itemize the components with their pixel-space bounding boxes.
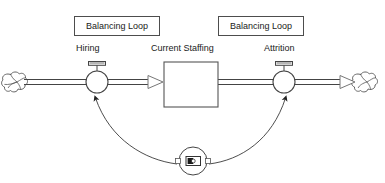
- label-attrition: Attrition: [264, 44, 295, 53]
- connector-comparator-to-hiring: [96, 98, 178, 164]
- balancing-loop-label-hiring: Balancing Loop: [86, 21, 148, 31]
- diagram-vector-layer: [0, 0, 385, 183]
- source-cloud: [2, 72, 28, 92]
- balancing-loop-box-hiring[interactable]: Balancing Loop: [74, 16, 160, 36]
- valve-hiring[interactable]: [86, 62, 108, 94]
- inflow-pipe-source-to-hiring: [24, 80, 88, 85]
- balancing-loop-label-attrition: Balancing Loop: [230, 21, 292, 31]
- balancing-loop-box-attrition[interactable]: Balancing Loop: [218, 16, 304, 36]
- outflow-pipe-attrition-to-sink: [293, 76, 355, 89]
- stock-box-current-staffing[interactable]: [164, 62, 218, 107]
- label-current-staffing: Current Staffing: [151, 44, 214, 53]
- valve-attrition[interactable]: [273, 62, 295, 94]
- outflow-pipe-stock-to-attrition: [218, 80, 275, 85]
- contrast-icon: [186, 157, 201, 166]
- connector-comparator-to-attrition: [209, 98, 286, 164]
- comparator-node[interactable]: [176, 147, 211, 175]
- stock-flow-diagram: Balancing Loop Balancing Loop Hiring Cur…: [0, 0, 385, 183]
- label-hiring: Hiring: [76, 44, 100, 53]
- inflow-pipe-hiring-to-stock: [106, 76, 163, 89]
